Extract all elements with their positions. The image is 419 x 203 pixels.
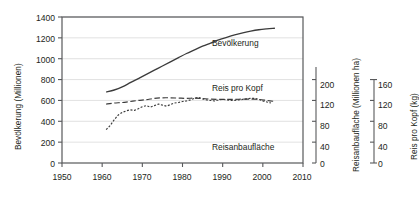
plot-frame [62,17,303,163]
series-line-reis-pro-kopf [106,97,271,129]
axis-ticks [58,17,303,167]
gridlines [62,17,303,142]
data-series [106,28,275,129]
secondary-axes [312,67,377,163]
